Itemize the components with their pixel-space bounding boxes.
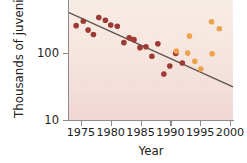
data-layer (69, 0, 233, 120)
data-point (108, 22, 114, 28)
data-point (167, 63, 173, 69)
data-point (185, 50, 191, 56)
data-point (192, 59, 198, 65)
y-axis-line (68, 0, 69, 121)
data-point (137, 45, 143, 51)
data-point (121, 40, 127, 46)
trend-line (69, 13, 233, 87)
data-point (96, 15, 102, 21)
data-point (73, 23, 79, 29)
data-point (85, 27, 91, 33)
data-point (209, 19, 215, 25)
data-point (161, 71, 167, 77)
plot-area (69, 0, 233, 120)
data-point (216, 26, 222, 32)
data-point (81, 19, 87, 25)
data-point (115, 23, 121, 29)
data-point (103, 18, 109, 24)
data-point (187, 33, 193, 39)
y-tick-10 (63, 120, 68, 121)
data-point (131, 37, 137, 43)
x-tick-label-2000: 2000 (210, 126, 247, 139)
data-point (155, 41, 161, 47)
y-tick-100 (63, 53, 68, 54)
data-point (209, 51, 215, 57)
data-point (198, 66, 204, 72)
data-point (149, 53, 155, 59)
data-point (174, 48, 180, 54)
data-point (126, 35, 132, 41)
chart-figure: 10100 197519801985199019952000 Thousands… (0, 0, 247, 163)
x-axis-line (68, 120, 234, 121)
data-point (180, 60, 186, 66)
data-point (143, 44, 149, 50)
data-point (91, 32, 97, 38)
y-axis-title: Thousands of juveniles (12, 0, 26, 118)
x-axis-title: Year (69, 144, 233, 158)
